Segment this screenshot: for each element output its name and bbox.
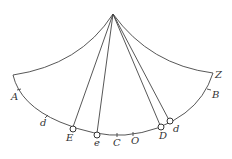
tick-A (17, 89, 21, 90)
label-D: D (158, 130, 167, 141)
string-D (113, 14, 160, 125)
label-C: C (113, 137, 121, 148)
label-O: O (131, 135, 139, 146)
label-d-left: d (40, 117, 46, 128)
string-E (73, 14, 113, 127)
label-Z: Z (214, 69, 223, 80)
right-cheek-curve (113, 14, 213, 73)
left-cheek-curve (13, 14, 113, 75)
string-d (113, 14, 169, 120)
pendulum-diagram: A d E e C O D d B Z (0, 0, 232, 159)
label-e: e (94, 137, 100, 148)
label-A: A (10, 91, 18, 102)
label-d-right: d (173, 123, 179, 134)
tick-B (207, 89, 211, 90)
label-E: E (65, 132, 74, 143)
label-B: B (211, 89, 219, 100)
